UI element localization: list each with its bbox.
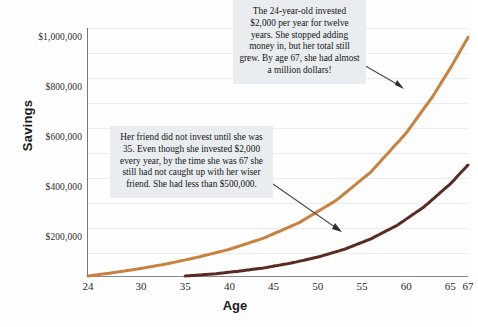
annotation-callout-late-investor: Her friend did not invest until she was …	[110, 126, 273, 198]
y-tick-label: $1,000,000	[14, 32, 82, 42]
x-tick-label: 35	[168, 280, 202, 292]
gridline	[88, 228, 468, 229]
x-tick-label: 55	[345, 280, 379, 292]
x-tick-label: 50	[301, 280, 335, 292]
y-tick-label: $200,000	[14, 232, 82, 242]
x-tick-label: 60	[389, 280, 423, 292]
y-axis-line	[87, 28, 88, 277]
x-tick-label: 40	[212, 280, 246, 292]
y-tick-label: $600,000	[14, 132, 82, 142]
y-tick-label: $400,000	[14, 182, 82, 192]
x-axis-title: Age	[0, 298, 470, 313]
x-tick-label: 24	[71, 280, 105, 292]
y-axis-tick-labels: $1,000,000 $800,000 $600,000 $400,000 $2…	[14, 0, 82, 327]
annotation-callout-early-investor: The 24-year-old invested $2,000 per year…	[233, 0, 366, 84]
x-tick-label: 67	[451, 280, 478, 292]
x-tick-label: 45	[257, 280, 291, 292]
gridline	[88, 203, 468, 204]
x-axis-line	[87, 276, 468, 277]
gridline	[88, 253, 468, 254]
x-tick-label: 30	[124, 280, 158, 292]
gridline	[88, 103, 468, 104]
y-tick-label: $800,000	[14, 82, 82, 92]
